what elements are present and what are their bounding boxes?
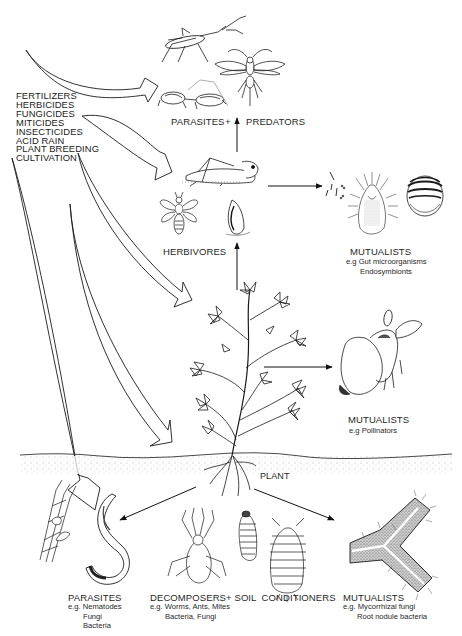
arrow-plant-to-root-mutualists	[254, 489, 334, 520]
label-plant: PLANT	[260, 472, 290, 481]
grasshopper-illustration	[182, 158, 258, 186]
bee-on-flower-illustration	[339, 309, 422, 394]
praying-mantis-illustration	[158, 80, 228, 109]
input-cultivation: CULTIVATION	[16, 154, 99, 163]
label-mutualists-pollinators: MUTUALISTS	[348, 415, 409, 425]
mutualists-gut-examples: e.g Gut microorganisms Endosymbionts	[346, 257, 427, 276]
assassin-bug-illustration	[162, 16, 246, 62]
aphid-illustration	[226, 200, 250, 235]
parasitic-wasp-illustration	[215, 49, 285, 106]
parasites-soil-examples: e.g. Nematodes Fungi Bacteria	[68, 602, 122, 631]
thrips-illustration	[160, 192, 198, 234]
mutualists-pollinators-examples: e.g Pollinators	[349, 426, 397, 436]
tick-illustration	[348, 172, 398, 234]
human-inputs-list: FERTILIZERS HERBICIDES FUNGICIDES MITICI…	[16, 92, 99, 163]
mycorrhizal-root-illustration	[350, 490, 438, 600]
arrow-plant-to-soil-parasites	[120, 487, 196, 520]
label-predators: PREDATORS	[246, 117, 305, 127]
label-plus: +	[225, 117, 231, 127]
scale-insect-illustration	[407, 176, 443, 216]
label-herbivores: HERBIVORES	[163, 247, 226, 257]
label-mutualists-gut: MUTUALISTS	[350, 247, 411, 257]
label-parasites-top: PARASITES	[171, 117, 225, 127]
grub-illustration	[239, 511, 257, 561]
gut-microorganisms-illustration	[326, 172, 345, 199]
soil-mite-illustration	[168, 508, 226, 583]
decomposers-examples: e.g. Worms, Ants, Mites Bacteria, Fungi	[150, 602, 230, 621]
mutualists-root-examples: e.g. Mycorrhizal fungi Root nodule bacte…	[343, 602, 427, 621]
sowbug-illustration	[270, 518, 306, 602]
soil-surface	[20, 453, 452, 474]
